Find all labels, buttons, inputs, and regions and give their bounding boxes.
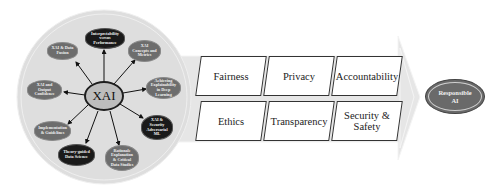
node-label: Theory-guided Data Science [62, 150, 91, 159]
xai-hub: XAI [84, 81, 124, 111]
node-xai-security-adversarial-ml: XAI & Security Adversarial ML [141, 115, 173, 140]
principle-accountability: Accountability [334, 56, 400, 96]
node-xai-concepts-metrics: XAI Concepts and Metrics [128, 40, 161, 62]
node-label: Rationale Explanation & Critical Data St… [109, 149, 135, 167]
principle-label: Ethics [218, 116, 244, 127]
node-label: XAI Concepts and Metrics [132, 44, 157, 58]
node-explainability-deep-learning: Achieving Explainability in Deep Learnin… [146, 77, 181, 99]
node-rationale-explanation: Rationale Explanation & Critical Data St… [105, 145, 139, 171]
principle-ethics: Ethics [198, 101, 264, 141]
node-label: XAI and Output Confidence [31, 83, 58, 97]
node-theory-guided-data-science: Theory-guided Data Science [58, 144, 95, 166]
node-xai-output-confidence: XAI and Output Confidence [27, 80, 62, 100]
responsible-ai-label: Responsible AI [435, 89, 475, 105]
principle-label: Accountability [336, 71, 398, 82]
principle-label: Transparency [271, 116, 328, 127]
principle-privacy: Privacy [266, 56, 332, 96]
node-label: Interpretability versus Performance [89, 32, 121, 46]
node-label: XAI & Data Fusion [51, 46, 74, 55]
xai-responsible-ai-diagram: Interpretability versus Performance XAI … [0, 0, 500, 194]
principle-fairness: Fairness [198, 56, 264, 96]
principle-label: Privacy [283, 71, 315, 82]
principle-transparency: Transparency [266, 101, 332, 141]
principle-security-safety: Security & Safety [334, 101, 400, 141]
node-label: Implementation & Guidelines [38, 126, 67, 135]
node-interpretability-vs-performance: Interpretability versus Performance [85, 28, 125, 49]
principle-label: Security & Safety [342, 110, 392, 132]
responsible-ai-node: Responsible AI [425, 79, 485, 114]
principle-label: Fairness [214, 71, 249, 82]
node-xai-data-fusion: XAI & Data Fusion [47, 42, 78, 60]
node-label: XAI & Security Adversarial ML [145, 118, 169, 136]
node-implementation-guidelines: Implementation & Guidelines [34, 121, 71, 141]
node-label: Achieving Explainability in Deep Learnin… [150, 79, 177, 97]
hub-label: XAI [92, 88, 115, 104]
